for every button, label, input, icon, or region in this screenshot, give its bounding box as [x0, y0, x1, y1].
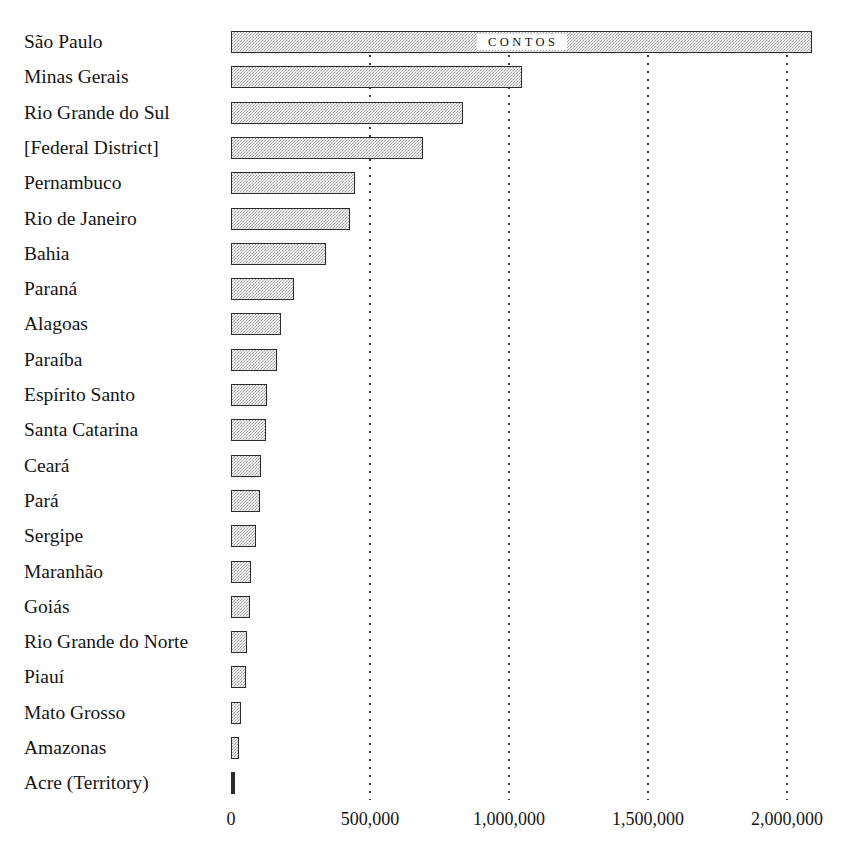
bar	[231, 772, 235, 794]
category-label: Piauí	[0, 667, 222, 687]
category-label: Rio Grande do Sul	[0, 103, 222, 123]
x-tick-label: 500,000	[341, 810, 400, 828]
category-label: Santa Catarina	[0, 420, 222, 440]
bar	[231, 455, 261, 477]
category-label: Alagoas	[0, 314, 222, 334]
bar	[231, 137, 423, 159]
category-label: Mato Grosso	[0, 703, 222, 723]
category-label: Paraíba	[0, 350, 222, 370]
category-label: Minas Gerais	[0, 67, 222, 87]
plot-area: São PauloMinas GeraisRio Grande do Sul[F…	[0, 0, 845, 849]
bar	[231, 208, 350, 230]
bar	[231, 102, 463, 124]
bar	[231, 278, 294, 300]
bar	[231, 596, 250, 618]
gridline-1000000	[508, 31, 510, 800]
category-label: Rio de Janeiro	[0, 209, 222, 229]
bar	[231, 490, 260, 512]
bar	[231, 737, 239, 759]
bar	[231, 66, 522, 88]
category-label: Maranhão	[0, 562, 222, 582]
category-label: Espírito Santo	[0, 385, 222, 405]
gridline-1500000	[647, 31, 649, 800]
category-label: São Paulo	[0, 32, 222, 52]
bar-chart: São PauloMinas GeraisRio Grande do Sul[F…	[0, 0, 845, 849]
bar	[231, 419, 266, 441]
unit-caption: CONTOS	[477, 34, 567, 50]
category-label: Ceará	[0, 456, 222, 476]
category-label: Pernambuco	[0, 173, 222, 193]
x-tick-label: 1,500,000	[612, 810, 684, 828]
bar	[231, 561, 251, 583]
category-label: Amazonas	[0, 738, 222, 758]
category-label: Rio Grande do Norte	[0, 632, 222, 652]
bar	[231, 631, 247, 653]
bar	[231, 313, 281, 335]
bar	[231, 349, 277, 371]
category-label: Sergipe	[0, 526, 222, 546]
category-label: Bahia	[0, 244, 222, 264]
bar	[231, 702, 241, 724]
bar	[231, 666, 246, 688]
bar	[231, 384, 267, 406]
x-tick-label: 0	[227, 810, 236, 828]
gridline-2000000	[786, 31, 788, 800]
category-label: Pará	[0, 491, 222, 511]
bar	[231, 243, 326, 265]
category-label: Acre (Territory)	[0, 773, 222, 793]
x-tick-label: 2,000,000	[751, 810, 823, 828]
bar	[231, 525, 256, 547]
category-label: Paraná	[0, 279, 222, 299]
category-label: Goiás	[0, 597, 222, 617]
bar	[231, 172, 355, 194]
category-label: [Federal District]	[0, 138, 222, 158]
x-tick-label: 1,000,000	[473, 810, 545, 828]
